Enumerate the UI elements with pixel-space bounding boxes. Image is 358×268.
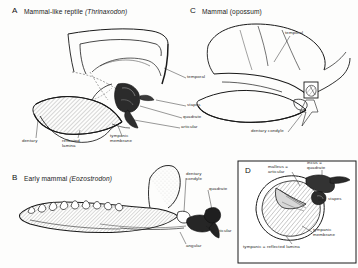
- label-a-quadrate: quadrate: [183, 115, 201, 120]
- label-b-articular: articular: [215, 229, 232, 234]
- panel-a-title: Mammal-like reptile (Thrinaxodon): [24, 8, 127, 15]
- anatomy-artwork: [0, 0, 358, 268]
- panel-b-title: Early mammal (Eozostrodon): [24, 175, 112, 182]
- label-b-dentary-condyle-line2: condyle: [186, 176, 202, 181]
- label-b-dentary-condyle: dentary condyle: [186, 172, 202, 182]
- label-d-malleus-articular-line2: articular: [268, 169, 285, 174]
- label-d-tympanic-membrane-line2: membrane: [313, 232, 335, 237]
- label-a-temporal: temporal: [187, 75, 205, 80]
- label-b-quadrate: quadrate: [209, 187, 227, 192]
- label-d-tympanic-reflected-lamina: tympanic = reflected lamina: [243, 245, 300, 250]
- label-d-incus-quadrate: incus = quadrate: [307, 161, 325, 171]
- label-c-temporal: temporal: [285, 31, 303, 36]
- label-d-malleus-articular: malleus = articular: [268, 165, 288, 175]
- panel-c-title: Mammal (opossum): [202, 8, 262, 15]
- label-a-reflected-lamina-line2: lamina: [62, 143, 76, 148]
- figure-canvas: A Mammal-like reptile (Thrinaxodon) temp…: [0, 0, 358, 268]
- panel-a-artwork: [33, 29, 186, 143]
- label-c-dentary-condyle: dentary condyle: [251, 129, 284, 134]
- panel-b-letter: B: [12, 173, 17, 182]
- label-d-stapes: stapes: [328, 197, 342, 202]
- panel-c-letter: C: [190, 6, 196, 15]
- label-a-stapes: stapes: [187, 103, 201, 108]
- panel-c-artwork: [197, 24, 350, 132]
- panel-d-letter: D: [245, 166, 251, 175]
- panel-b-title-text: Early mammal: [24, 175, 67, 182]
- label-d-tympanic-membrane: tympanic membrane: [313, 228, 335, 238]
- panel-b-taxon: (Eozostrodon): [69, 175, 112, 182]
- label-a-articular: articular: [181, 125, 198, 130]
- label-a-tympanic-membrane: tympanic membrane: [110, 134, 132, 144]
- label-a-reflected-lamina: reflected lamina: [62, 139, 80, 149]
- panel-a-title-text: Mammal-like reptile: [24, 8, 83, 15]
- label-a-dentary: dentary: [22, 139, 38, 144]
- panel-c-title-text: Mammal: [202, 8, 228, 15]
- panel-c-taxon: (opossum): [230, 8, 262, 15]
- label-a-tympanic-membrane-line2: membrane: [110, 138, 132, 143]
- label-b-angular: angular: [186, 244, 202, 249]
- label-d-incus-quadrate-line2: quadrate: [307, 165, 325, 170]
- panel-a-taxon: (Thrinaxodon): [85, 8, 127, 15]
- panel-a-letter: A: [12, 6, 17, 15]
